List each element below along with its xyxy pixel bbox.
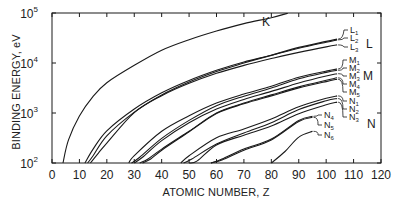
shell-label-n: N xyxy=(367,117,376,131)
leader-line xyxy=(338,74,347,76)
x-tick-label: 100 xyxy=(316,168,336,182)
shell-label-m: M xyxy=(363,69,373,83)
x-tick-label: 110 xyxy=(344,168,363,182)
x-tick-label: 60 xyxy=(210,168,224,182)
x-axis-title: ATOMIC NUMBER, Z xyxy=(163,186,270,198)
binding-energy-chart: 0102030405060708090100110120 10210310410… xyxy=(0,0,404,201)
leader-line xyxy=(314,131,323,135)
shell-label-k: K xyxy=(262,15,270,29)
y-tick-label: 102 xyxy=(20,155,38,171)
x-tick-label: 90 xyxy=(292,168,306,182)
x-tick-label: 70 xyxy=(237,168,251,182)
y-tick-label: 103 xyxy=(20,105,38,121)
curve-l2 xyxy=(88,40,338,163)
leader-line xyxy=(314,115,323,116)
shell-label-l: L xyxy=(366,37,373,51)
curve-m1 xyxy=(129,69,337,163)
leader-line xyxy=(338,78,347,84)
x-tick-label: 10 xyxy=(73,168,87,182)
leader-line xyxy=(314,117,323,125)
curve-l1 xyxy=(85,39,337,163)
x-tick-label: 20 xyxy=(100,168,114,182)
curve-n1 xyxy=(181,96,337,163)
subshell-label-n6: N6 xyxy=(324,130,335,141)
x-tick-label: 40 xyxy=(155,168,169,182)
x-tick-label: 50 xyxy=(182,168,196,182)
series-curves xyxy=(63,13,337,163)
y-tick-label: 105 xyxy=(20,5,38,21)
y-axis-title: BINDING ENERGY, eV xyxy=(10,34,22,150)
leader-line xyxy=(338,45,348,47)
y-axis-ticks: 102103104105 xyxy=(20,5,381,171)
x-tick-label: 30 xyxy=(128,168,142,182)
x-tick-label: 80 xyxy=(265,168,279,182)
y-tick-label: 104 xyxy=(20,55,38,71)
x-tick-label: 120 xyxy=(371,168,391,182)
x-tick-label: 0 xyxy=(49,168,56,182)
